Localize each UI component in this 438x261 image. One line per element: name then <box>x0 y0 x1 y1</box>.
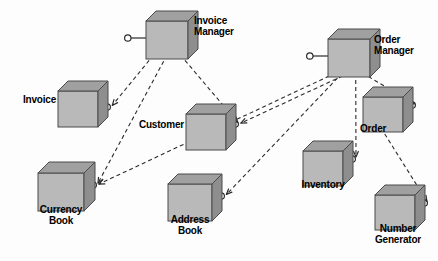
component-label-currency-book: Currency Book <box>26 205 96 226</box>
component-label-address-book: Address Book <box>156 215 224 236</box>
component-cube-icon <box>185 103 238 152</box>
component-label-order-manager: Order Manager <box>374 35 436 56</box>
component-label-order: Order <box>360 124 406 135</box>
component-label-invoice-manager: Invoice Manager <box>194 16 256 37</box>
provided-interface-invoice-manager[interactable] <box>125 35 146 41</box>
component-label-customer: Customer <box>128 120 184 131</box>
component-label-inventory: Inventory <box>288 180 358 191</box>
dependency-invoice-manager-to-invoice <box>112 53 155 105</box>
component-cube-icon <box>57 80 110 129</box>
provided-interface-order-manager[interactable] <box>307 53 328 59</box>
component-diagram-canvas: Invoice ManagerOrder ManagerInvoiceCusto… <box>0 0 438 261</box>
component-label-number-generator: Number Generator <box>360 224 436 245</box>
component-cube-icon <box>145 10 200 61</box>
component-label-invoice: Invoice <box>8 95 56 106</box>
